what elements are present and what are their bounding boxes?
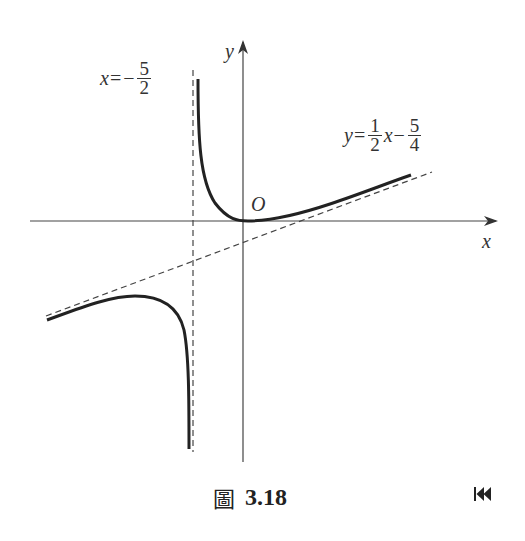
x-axis-label: x	[482, 230, 491, 253]
va-op: =	[110, 67, 121, 90]
origin-label: O	[251, 193, 265, 216]
sa-sign: −	[394, 124, 405, 147]
caption-number: 3.18	[245, 484, 287, 511]
sa-op: =	[354, 124, 365, 147]
va-sign: −	[123, 67, 134, 90]
y-axis-label: y	[225, 40, 234, 63]
sa-var: x	[384, 124, 393, 147]
va-fraction: 5 2	[137, 60, 151, 97]
va-lhs: x	[100, 67, 109, 90]
sa-lhs: y	[344, 124, 353, 147]
figure-caption: 圖 3.18	[213, 481, 287, 513]
curve-left-branch	[47, 296, 189, 449]
vertical-asymptote-label: x = − 5 2	[100, 60, 153, 97]
sa-fraction-1: 1 2	[368, 117, 382, 154]
skip-back-icon	[474, 486, 492, 502]
slant-asymptote	[46, 172, 432, 316]
va-den: 2	[139, 79, 149, 97]
caption-char: 圖	[213, 481, 235, 513]
sa-fraction-2: 5 4	[408, 117, 422, 154]
slant-asymptote-label: y = 1 2 x − 5 4	[344, 117, 423, 154]
sa-den1: 2	[370, 136, 380, 154]
sa-den2: 4	[410, 136, 420, 154]
function-graph	[0, 0, 525, 541]
first-page-button[interactable]	[474, 486, 492, 502]
